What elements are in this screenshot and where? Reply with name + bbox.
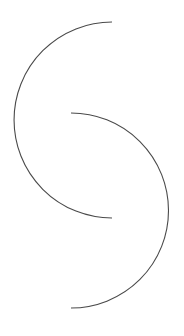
upper-arc <box>14 22 112 218</box>
diagram-canvas <box>0 0 184 336</box>
lower-arc <box>71 113 169 308</box>
